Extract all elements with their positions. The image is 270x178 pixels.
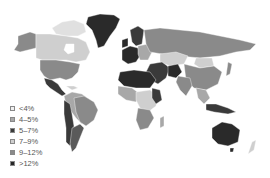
region-australia <box>212 122 240 146</box>
region-brazil <box>74 96 98 126</box>
legend-swatch <box>10 150 15 155</box>
legend-swatch <box>10 139 15 144</box>
region-canada <box>36 34 90 62</box>
region-southeast-asia <box>196 88 210 104</box>
legend-item: 5–7% <box>10 125 42 136</box>
region-southern-africa <box>136 108 154 130</box>
region-tasmania <box>230 148 234 152</box>
legend-label: <4% <box>19 104 34 113</box>
legend-label: >12% <box>19 159 38 168</box>
region-madagascar <box>160 116 164 128</box>
legend-label: 7–9% <box>19 137 38 146</box>
region-canada-arctic <box>52 20 86 36</box>
legend-item: <4% <box>10 103 42 114</box>
legend-label: 9–12% <box>19 148 42 157</box>
legend-label: 4–5% <box>19 115 38 124</box>
map-legend: <4% 4–5% 5–7% 7–9% 9–12% >12% <box>10 103 42 169</box>
region-argentina <box>70 124 84 152</box>
region-uk <box>122 38 128 48</box>
region-mexico <box>44 78 66 96</box>
region-new-zealand <box>248 140 256 154</box>
region-scandinavia <box>130 26 144 46</box>
legend-swatch <box>10 128 15 133</box>
region-indonesia <box>206 104 236 114</box>
legend-item: >12% <box>10 158 42 169</box>
region-caribbean <box>66 86 78 90</box>
legend-swatch <box>10 106 15 111</box>
region-alaska <box>14 32 36 52</box>
region-japan <box>226 62 232 76</box>
region-north-africa <box>118 70 156 88</box>
region-usa <box>40 60 80 80</box>
legend-swatch <box>10 161 15 166</box>
region-iran <box>168 64 182 78</box>
legend-item: 4–5% <box>10 114 42 125</box>
legend-swatch <box>10 117 15 122</box>
legend-item: 7–9% <box>10 136 42 147</box>
legend-item: 9–12% <box>10 147 42 158</box>
region-russia <box>144 28 256 58</box>
region-india <box>176 76 192 96</box>
region-greenland <box>86 14 120 48</box>
region-europe-west <box>122 46 140 64</box>
legend-label: 5–7% <box>19 126 38 135</box>
